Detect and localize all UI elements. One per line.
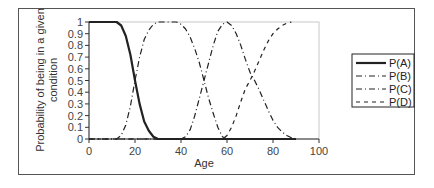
y-axis-title-line2: condition	[47, 58, 59, 102]
y-axis-title: Probability of being in a given conditio…	[34, 8, 59, 152]
x-tick-label: 80	[267, 145, 279, 157]
legend-label: P(B)	[389, 70, 411, 82]
series-pc-line	[89, 22, 296, 139]
x-tick-label: 20	[129, 145, 141, 157]
x-tick-label: 100	[310, 145, 328, 157]
x-ticks: 020406080100	[86, 139, 328, 157]
x-tick-label: 60	[221, 145, 233, 157]
y-axis-title-line1: Probability of being in a given	[34, 8, 46, 152]
series-group	[89, 22, 296, 139]
legend-label: P(D)	[389, 96, 412, 108]
y-tick-label: 0.2	[68, 110, 83, 122]
x-tick-label: 0	[86, 145, 92, 157]
legend-label: P(A)	[389, 57, 411, 69]
y-tick-label: 0	[77, 133, 83, 145]
y-tick-label: 0.3	[68, 98, 83, 110]
y-tick-label: 0.1	[68, 121, 83, 133]
y-ticks: 00.10.20.30.40.50.60.70.80.91	[68, 16, 89, 145]
y-tick-label: 0.9	[68, 28, 83, 40]
x-tick-label: 40	[175, 145, 187, 157]
series-pa-line	[89, 22, 296, 139]
series-pd-line	[89, 22, 291, 139]
y-tick-label: 0.6	[68, 63, 83, 75]
x-axis-title: Age	[194, 157, 214, 169]
y-tick-label: 0.5	[68, 75, 83, 87]
y-tick-label: 0.4	[68, 86, 83, 98]
y-tick-label: 0.7	[68, 51, 83, 63]
y-tick-label: 0.8	[68, 39, 83, 51]
y-tick-label: 1	[77, 16, 83, 28]
line-chart: 00.10.20.30.40.50.60.70.80.91 0204060801…	[0, 0, 434, 188]
legend-label: P(C)	[389, 83, 412, 95]
legend: P(A)P(B)P(C)P(D)	[352, 54, 414, 108]
series-pb-line	[89, 22, 296, 139]
